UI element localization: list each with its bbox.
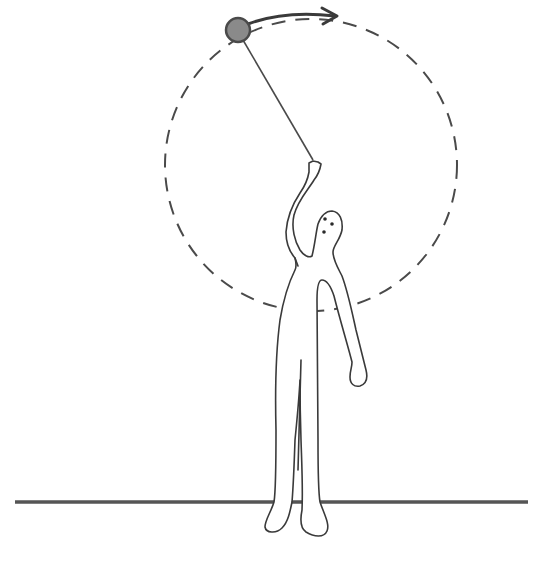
illustration <box>0 0 537 564</box>
string <box>243 40 313 160</box>
ball <box>226 18 250 42</box>
person-figure <box>265 161 367 536</box>
figure-canvas: Person swinging a ball on a string in a … <box>0 0 537 564</box>
eye-right <box>330 222 334 226</box>
eye-left <box>323 217 327 221</box>
arrow-right-icon <box>248 8 337 24</box>
mouth <box>322 230 326 234</box>
person-outline <box>265 161 367 536</box>
